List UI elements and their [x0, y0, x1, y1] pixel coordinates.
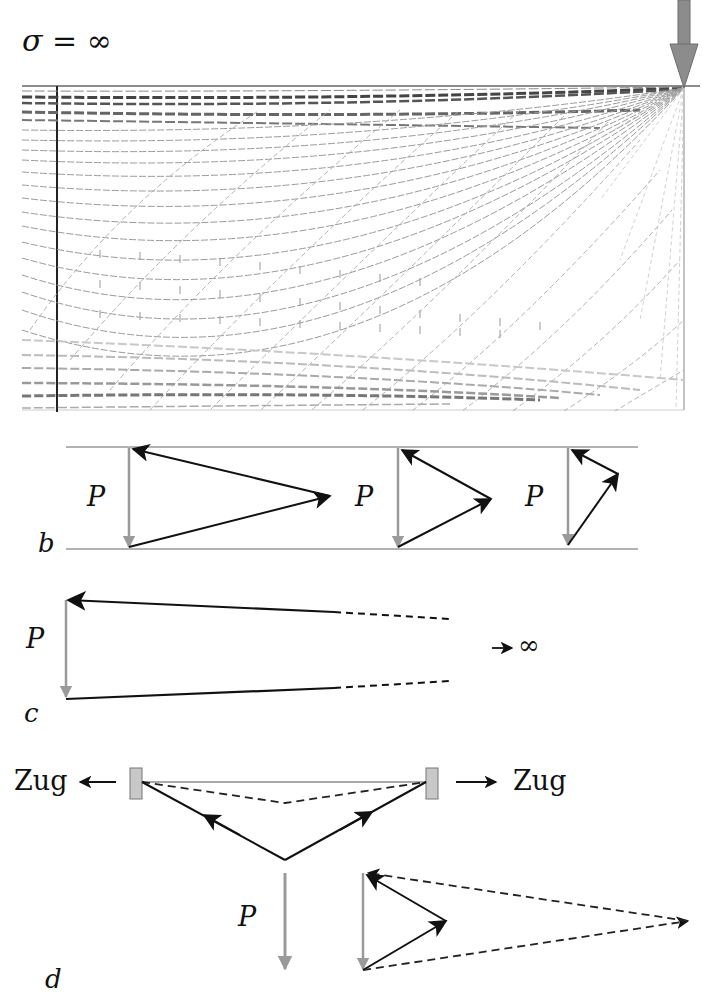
force-label-p-c: P	[26, 625, 44, 652]
force-label-p-2: P	[355, 483, 373, 510]
crosshatch-ticks	[100, 250, 540, 338]
force-polygon-3	[568, 448, 618, 545]
force-label-p-d: P	[238, 903, 256, 930]
top-compression-bands	[22, 87, 684, 128]
panel-c-label: c	[24, 700, 39, 726]
force-polygon-2	[398, 448, 491, 547]
applied-load-arrow	[670, 0, 698, 88]
left-support	[130, 768, 142, 799]
principal-lines-family-2	[30, 110, 684, 420]
left-tension-label: Zug	[14, 767, 67, 794]
right-support	[426, 768, 438, 799]
force-polygon-d	[363, 873, 688, 970]
limit-infinity-text: ∞	[518, 632, 540, 658]
right-tension-label: Zug	[513, 767, 566, 794]
force-label-p-1: P	[87, 483, 105, 510]
force-polygon-1	[129, 448, 330, 547]
force-label-p-3: P	[525, 483, 543, 510]
panel-b-label: b	[38, 530, 55, 556]
force-polygon-c	[66, 600, 512, 699]
panel-d-structure	[80, 768, 496, 969]
stress-field-figure	[0, 0, 714, 440]
panel-d-label: d	[45, 966, 62, 992]
